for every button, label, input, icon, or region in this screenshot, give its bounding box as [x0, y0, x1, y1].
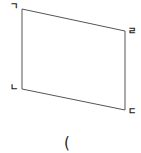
vertex-label-top-right: ㄹ: [128, 27, 136, 36]
vertex-label-top-left: ㄱ: [10, 2, 18, 11]
parallelogram-shape: [22, 9, 125, 110]
vertex-label-bottom-left: ㄴ: [10, 83, 18, 92]
vertex-label-bottom-right: ㄷ: [128, 107, 136, 116]
parallelogram-figure: [0, 0, 141, 153]
figure-caption: (: [64, 135, 70, 151]
